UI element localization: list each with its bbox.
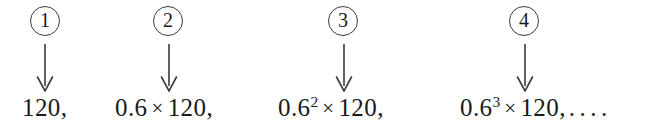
term-3-coefficient: 0.6 — [278, 94, 310, 121]
step-marker-3: 3 — [328, 6, 358, 36]
term-4-comma: , — [559, 94, 566, 121]
term-3-comma: , — [377, 94, 384, 121]
step-marker-1: 1 — [30, 6, 60, 36]
term-4-coefficient: 0.6 — [460, 94, 492, 121]
term-2-coefficient: 0.6 — [115, 94, 147, 121]
sequence-term-1: 120, — [22, 95, 67, 120]
multiplication-sign-3: × — [318, 96, 338, 120]
term-2-comma: , — [206, 94, 213, 121]
multiplication-sign-4: × — [500, 96, 520, 120]
step-marker-2-label: 2 — [163, 10, 173, 30]
sequence-ellipsis: .... — [566, 94, 612, 121]
step-marker-3-label: 3 — [338, 10, 348, 30]
step-marker-4: 4 — [509, 6, 539, 36]
term-1-value: 120 — [22, 94, 61, 121]
sequence-figure: 1 2 3 4 120, 0.6×120, 0.62×120, 0.63×120… — [0, 0, 650, 131]
step-marker-4-label: 4 — [519, 10, 529, 30]
down-arrow-icon-3 — [331, 44, 357, 92]
step-marker-1-label: 1 — [40, 10, 50, 30]
multiplication-sign-2: × — [147, 96, 167, 120]
sequence-term-3: 0.62×120, — [278, 95, 384, 120]
sequence-term-2: 0.6×120, — [115, 95, 213, 120]
down-arrow-icon-1 — [32, 44, 58, 92]
down-arrow-icon-4 — [512, 44, 538, 92]
step-marker-2: 2 — [153, 6, 183, 36]
sequence-term-4: 0.63×120,.... — [460, 95, 612, 120]
term-2-value: 120 — [168, 94, 207, 121]
term-3-value: 120 — [338, 94, 377, 121]
term-4-value: 120 — [520, 94, 559, 121]
down-arrow-icon-2 — [156, 44, 182, 92]
term-1-comma: , — [61, 94, 68, 121]
